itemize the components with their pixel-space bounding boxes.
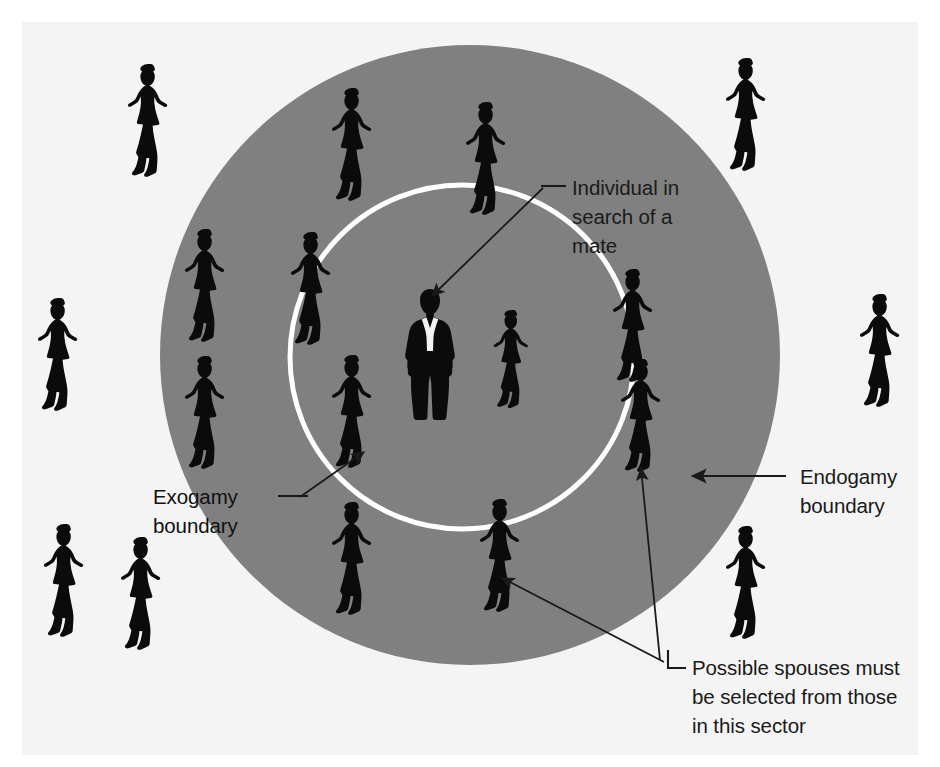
label-possible-spouses-line-2: be selected from those: [692, 685, 897, 708]
spouses-leader-elbow: [668, 650, 686, 668]
female-figure: [121, 537, 160, 650]
female-figure: [726, 58, 765, 171]
label-individual-line-3: mate: [572, 234, 617, 257]
label-endogamy-line-1: Endogamy: [800, 465, 898, 488]
label-possible-spouses-line-1: Possible spouses must: [692, 656, 900, 679]
female-figure: [860, 294, 899, 407]
label-individual-line-1: Individual in: [572, 176, 679, 199]
label-possible-spouses-line-3: in this sector: [692, 714, 806, 737]
label-exogamy-line-1: Exogamy: [153, 485, 239, 508]
female-figure: [128, 64, 167, 177]
label-possible-spouses: Possible spouses must be selected from t…: [692, 656, 905, 737]
endogamy-boundary-circle: [160, 45, 780, 665]
label-individual-line-2: search of a: [572, 205, 673, 228]
label-exogamy-line-2: boundary: [153, 514, 239, 537]
female-figure: [38, 298, 77, 411]
label-endogamy-line-2: boundary: [800, 494, 886, 517]
diagram-canvas: Individual in search of a mate Endogamy …: [0, 0, 940, 767]
female-figure: [44, 524, 83, 637]
diagram-figure: Individual in search of a mate Endogamy …: [0, 0, 940, 767]
female-figure: [726, 526, 765, 639]
label-endogamy: Endogamy boundary: [800, 465, 903, 517]
